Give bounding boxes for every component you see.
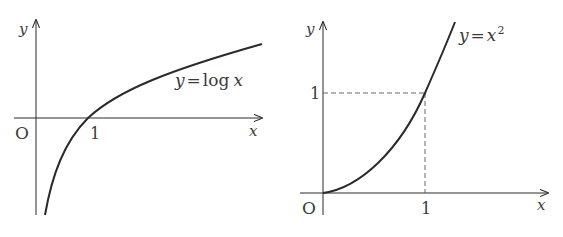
x-axis-label: x <box>537 196 546 214</box>
diagram-canvas: y O 1 x y=logx y 1 O 1 x y=x2 <box>0 0 563 237</box>
log-graph: y O 1 x y=logx <box>14 20 262 215</box>
origin-label: O <box>15 123 29 143</box>
y-axis-label: y <box>305 20 315 38</box>
x-tick-1: 1 <box>90 124 100 143</box>
origin-label: O <box>302 198 316 218</box>
log-curve <box>45 44 262 215</box>
x-tick-1: 1 <box>421 199 431 218</box>
square-graph: y 1 O 1 x y=x2 <box>300 20 548 218</box>
y-axis-label: y <box>18 20 28 38</box>
y-tick-1: 1 <box>310 84 320 103</box>
log-equation-label: y=logx <box>174 70 243 90</box>
x-axis-label: x <box>249 122 258 140</box>
parabola-curve <box>323 22 455 193</box>
square-equation-label: y=x2 <box>458 24 504 45</box>
